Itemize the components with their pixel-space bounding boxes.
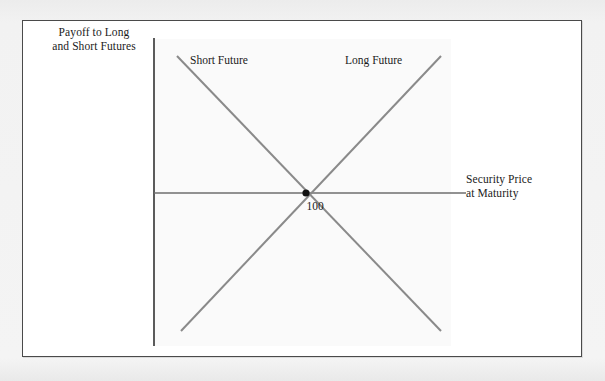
strike-price-annotation: 100 [295,200,335,212]
figure-frame: Payoff to Long and Short Futures Securit… [22,20,582,357]
breakeven-point-marker [302,189,309,196]
x-axis-label: Security Price at Maturity [466,173,532,200]
series-label-long-future: Long Future [345,54,402,66]
y-axis-label-line-2: and Short Futures [35,40,153,54]
y-axis-label-line-1: Payoff to Long [35,26,153,40]
x-axis-label-line-2: at Maturity [466,187,532,201]
plot-area: Payoff to Long and Short Futures Securit… [23,21,583,358]
y-axis-label: Payoff to Long and Short Futures [35,26,153,53]
series-label-short-future: Short Future [190,54,248,66]
x-axis-label-line-1: Security Price [466,173,532,187]
